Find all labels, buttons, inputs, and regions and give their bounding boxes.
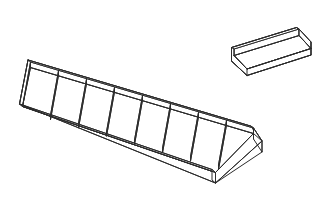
- divided-tray: [20, 60, 263, 183]
- plain-tray: [232, 28, 312, 76]
- illustration-canvas: [0, 0, 330, 205]
- tray-assembly-drawing: [0, 0, 330, 205]
